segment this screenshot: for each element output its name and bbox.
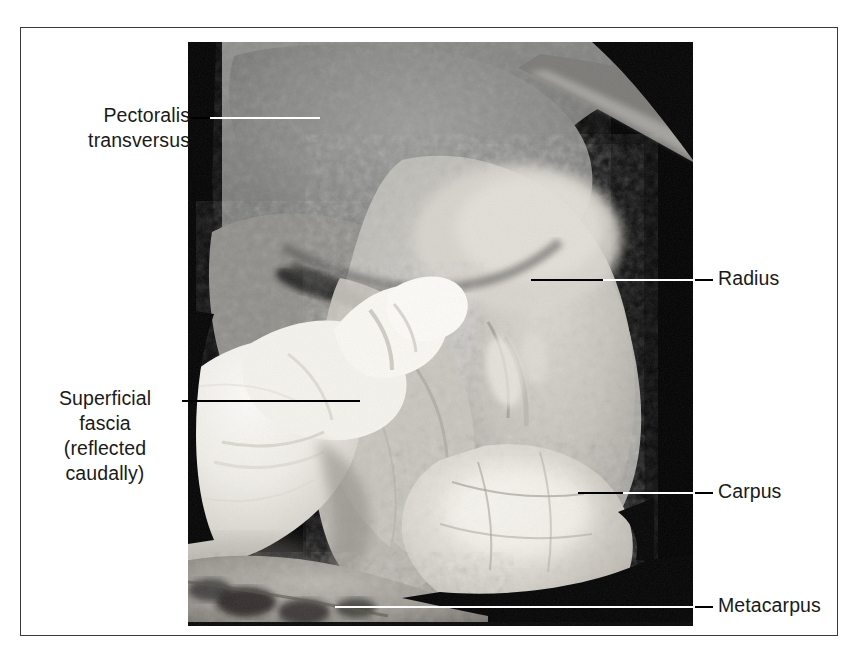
leader-line-pectoralis-transversus-on-black <box>188 117 212 119</box>
figure-root: Pectoralis transversus Superficial fasci… <box>0 0 860 657</box>
leader-line-carpus-on-tissue <box>578 492 623 494</box>
leader-line-superficial-fascia <box>182 400 360 402</box>
leader-line-radius-outer <box>693 279 713 281</box>
leader-line-carpus-outer <box>693 492 713 494</box>
leader-line-metacarpus-outer <box>693 606 713 608</box>
leader-line-carpus-on-black <box>620 492 695 494</box>
label-metacarpus: Metacarpus <box>718 593 821 618</box>
label-radius: Radius <box>718 266 779 291</box>
anatomy-photograph <box>188 42 693 626</box>
label-carpus: Carpus <box>718 479 781 504</box>
dissection-photo-graphic <box>188 42 693 626</box>
leader-line-metacarpus-on-black <box>335 606 695 608</box>
label-pectoralis-transversus: Pectoralis transversus <box>44 103 190 153</box>
leader-line-radius-on-black <box>600 279 695 281</box>
label-superficial-fascia: Superficial fascia (reflected caudally) <box>20 386 190 486</box>
leader-line-pectoralis-transversus-on-photo <box>210 117 320 119</box>
leader-line-radius-on-tissue <box>531 279 603 281</box>
